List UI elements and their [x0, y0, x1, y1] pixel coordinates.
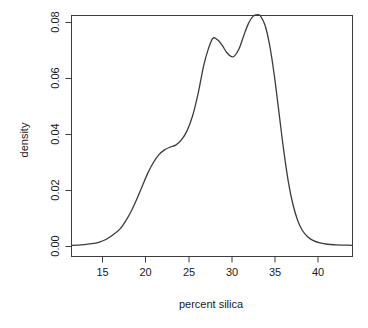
- y-tick-label-3: 0.06: [49, 67, 61, 88]
- x-tick-label-3: 30: [226, 266, 238, 278]
- y-tick-label-1: 0.02: [49, 179, 61, 200]
- y-tick-label-0: 0.00: [49, 235, 61, 256]
- x-tick-label-5: 40: [312, 266, 324, 278]
- x-tick-label-2: 25: [183, 266, 195, 278]
- y-tick-label-2: 0.04: [49, 123, 61, 144]
- x-tick-label-0: 15: [96, 266, 108, 278]
- x-tick-label-1: 20: [139, 266, 151, 278]
- figure-background: [0, 0, 368, 328]
- x-axis-title: percent silica: [179, 298, 244, 310]
- y-axis-title: density: [18, 122, 30, 157]
- y-tick-label-4: 0.08: [49, 11, 61, 32]
- x-tick-label-4: 35: [269, 266, 281, 278]
- density-plot-figure: 0.00 0.02 0.04 0.06 0.08 15 20 25 30 35 …: [0, 0, 368, 328]
